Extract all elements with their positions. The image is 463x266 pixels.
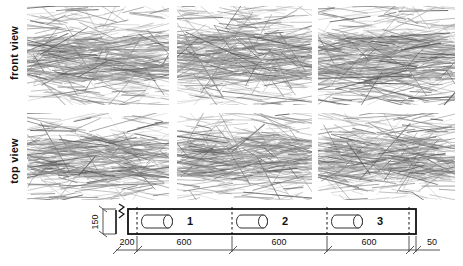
figure-root: front view top view <box>0 0 463 266</box>
specimen-panel-front-3 <box>318 6 455 105</box>
cylinder-specimen-3 <box>332 215 363 228</box>
fiber-network-graphic <box>27 6 169 105</box>
height-dimension-label: 150 <box>90 214 100 229</box>
dimension-label-0: 200 <box>119 237 134 247</box>
dimension-label-1: 600 <box>176 237 191 247</box>
fiber-network-graphic <box>318 6 455 105</box>
dimension-label-3: 600 <box>361 237 376 247</box>
dimension-label-4: 50 <box>427 237 437 247</box>
cylinder-label-2: 2 <box>282 215 288 227</box>
specimen-panel-front-2 <box>177 6 312 105</box>
fiber-network-graphic <box>318 113 455 200</box>
fiber-network-graphic <box>177 6 312 105</box>
dimension-label-2: 600 <box>271 237 286 247</box>
break-symbol-icon <box>119 204 124 218</box>
fiber-network-graphic <box>177 113 312 200</box>
cylinder-specimen-2 <box>237 215 268 228</box>
cylinder-label-1: 1 <box>187 215 193 227</box>
fiber-network-graphic <box>27 113 169 200</box>
beam-schematic-drawing: 1 2 3 150 <box>0 200 463 266</box>
specimen-panel-top-2 <box>177 113 312 200</box>
row-label-top-view: top view <box>8 123 20 199</box>
specimen-panel-top-3 <box>318 113 455 200</box>
height-dimension-line <box>99 206 116 237</box>
specimen-panel-top-1 <box>27 113 169 200</box>
cylinder-specimen-1 <box>142 215 173 228</box>
row-label-front-view: front view <box>8 12 20 94</box>
beam-schematic: 1 2 3 150 <box>0 200 463 266</box>
cylinder-label-3: 3 <box>377 215 383 227</box>
specimen-panel-front-1 <box>27 6 169 105</box>
